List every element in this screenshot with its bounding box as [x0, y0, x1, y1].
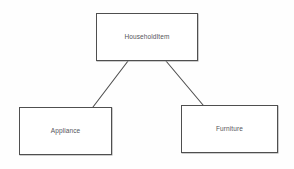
- class-box-furniture[interactable]: Furniture: [181, 105, 278, 153]
- class-box-householditem[interactable]: HouseholdItem: [96, 13, 198, 61]
- generalization-edge-furniture: [166, 61, 203, 105]
- class-name-householditem: HouseholdItem: [124, 34, 169, 41]
- class-name-appliance: Appliance: [51, 128, 80, 135]
- class-name-furniture: Furniture: [216, 126, 243, 133]
- generalization-edge-appliance: [93, 61, 128, 107]
- class-diagram-canvas: HouseholdItem Appliance Furniture: [0, 0, 294, 169]
- class-box-appliance[interactable]: Appliance: [19, 107, 112, 155]
